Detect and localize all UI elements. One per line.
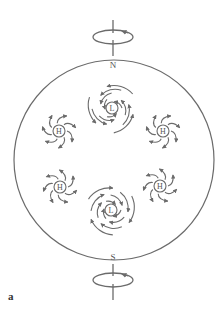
low-pressure-north-1: L	[88, 86, 133, 133]
panel-label: a	[8, 290, 14, 302]
north-pole-label: N	[110, 60, 117, 70]
high-pressure-north-0: H	[43, 116, 76, 149]
svg-text:H: H	[56, 127, 62, 136]
high-pressure-north-2: H	[147, 116, 180, 149]
south-rotation-axis	[93, 264, 133, 300]
svg-text:H: H	[157, 182, 163, 191]
north-rotation-axis	[93, 20, 133, 56]
svg-text:H: H	[160, 127, 166, 136]
svg-text:H: H	[57, 183, 63, 192]
south-pole-label: S	[110, 252, 115, 262]
high-pressure-south-5: H	[144, 169, 177, 202]
planet-outline	[14, 60, 214, 260]
rotating-planet-diagram: N S HLHHLH	[0, 0, 224, 316]
pressure-systems: HLHHLH	[43, 86, 180, 235]
svg-text:L: L	[109, 206, 114, 215]
svg-text:L: L	[110, 104, 115, 113]
high-pressure-south-3: H	[44, 170, 77, 203]
low-pressure-south-4: L	[89, 188, 135, 235]
